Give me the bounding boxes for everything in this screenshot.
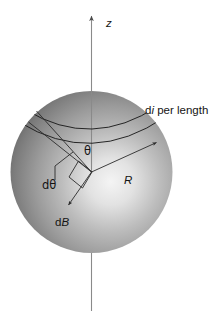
dB-label-symbol: B — [61, 216, 69, 228]
z-axis-label: z — [105, 17, 112, 29]
svg-text:dθ: dθ — [42, 178, 56, 192]
dtheta-label-prefix: d — [42, 178, 49, 192]
radius-label: R — [124, 174, 132, 186]
svg-text:dB: dB — [55, 216, 69, 228]
dB-label: dB — [55, 216, 69, 228]
dtheta-label: dθ — [42, 178, 56, 192]
diagram-canvas: z di per length θ dθ R dB — [0, 0, 224, 326]
current-label-suffix: per length — [154, 104, 208, 116]
svg-text:di per length: di per length — [145, 104, 208, 116]
dtheta-label-symbol: θ — [49, 178, 56, 192]
theta-label: θ — [84, 144, 91, 158]
magnetic-field-sphere-diagram: z di per length θ dθ R dB — [0, 0, 224, 326]
current-per-length-label: di per length — [145, 104, 208, 116]
